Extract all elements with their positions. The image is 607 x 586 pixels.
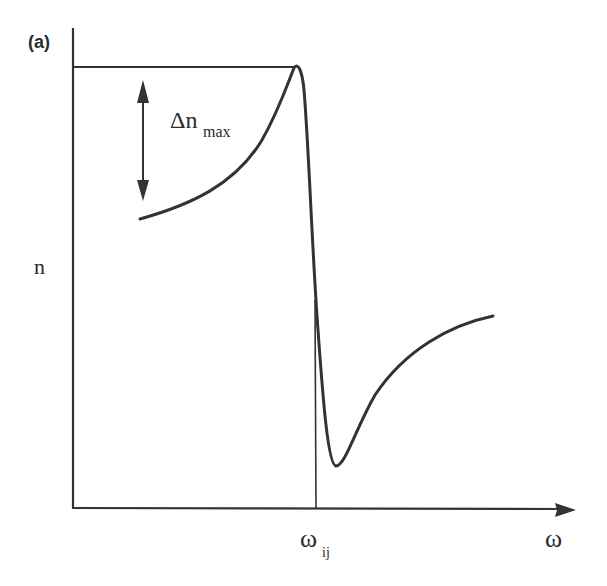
y-axis-label: n [34,254,45,279]
panel-label: (a) [28,32,50,52]
x-axis-label: ω [545,524,562,553]
delta-n-arrow-down-icon [137,180,149,201]
x-axis-arrowhead-icon [555,503,576,517]
delta-n-arrow-up-icon [137,80,149,103]
resonance-marker-line [315,300,316,508]
delta-label-main: Δn [170,107,197,133]
x-axis [72,508,560,509]
resonance-label-sub: ij [322,545,330,560]
resonance-label-main: ω [300,524,317,553]
dispersion-diagram: (a) n Δn max ω ij ω [0,0,607,586]
delta-label-sub: max [203,123,231,140]
